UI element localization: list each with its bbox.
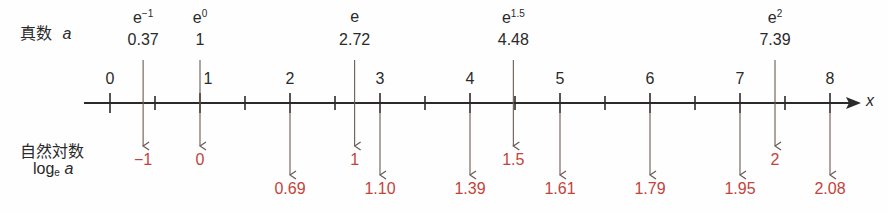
- tick-label: 0: [106, 70, 115, 88]
- tick-label: 4: [466, 70, 475, 88]
- antilog-var: a: [62, 25, 71, 42]
- special-value: 7.39: [759, 31, 790, 49]
- exp-power: 1.5: [511, 8, 525, 19]
- antilog-label-text: 真数: [20, 25, 52, 42]
- antilog-label: 真数 a: [20, 20, 71, 44]
- tick-label: 6: [646, 70, 655, 88]
- value-lines: [143, 60, 830, 175]
- exp-base: e: [193, 9, 202, 26]
- integer-log-value: 1.61: [544, 180, 575, 198]
- integer-log-value: 1.95: [724, 180, 755, 198]
- natlog-prefix: log: [33, 160, 54, 177]
- integer-log-value: 1.39: [454, 180, 485, 198]
- tick-label: 1: [204, 70, 213, 88]
- special-log-value: 1: [350, 151, 359, 169]
- special-exponent: e: [350, 8, 359, 26]
- integer-log-value: 1.79: [634, 180, 665, 198]
- special-exponent: e2: [768, 8, 782, 27]
- tick-label: 5: [556, 70, 565, 88]
- exp-base: e: [502, 9, 511, 26]
- special-value: 0.37: [128, 31, 159, 49]
- exp-power: 2: [777, 8, 783, 19]
- tick-label: 2: [286, 70, 295, 88]
- special-log-value: 1.5: [502, 151, 524, 169]
- exp-base: e: [350, 8, 359, 25]
- exp-power: −1: [142, 8, 153, 19]
- integer-log-value: 2.08: [814, 180, 845, 198]
- tick-label: 3: [376, 70, 385, 88]
- natlog-label: 自然対数: [20, 138, 84, 162]
- exp-base: e: [133, 9, 142, 26]
- integer-log-value: 0.69: [274, 180, 305, 198]
- special-log-value: 0: [196, 151, 205, 169]
- natlog-var: a: [64, 160, 73, 177]
- special-value: 2.72: [339, 31, 370, 49]
- special-exponent: e−1: [133, 8, 153, 27]
- tick-label: 7: [736, 70, 745, 88]
- integer-log-value: 1.10: [364, 180, 395, 198]
- axis-var-label: x: [866, 92, 874, 110]
- natlog-base: e: [54, 167, 60, 178]
- special-value: 4.48: [498, 31, 529, 49]
- natlog-notation: loge a: [33, 160, 73, 178]
- natlog-label-text: 自然対数: [20, 143, 84, 160]
- special-value: 1: [196, 31, 205, 49]
- tick-label: 8: [826, 70, 835, 88]
- exp-power: 0: [202, 8, 208, 19]
- special-log-value: −1: [134, 151, 152, 169]
- special-log-value: 2: [771, 151, 780, 169]
- special-exponent: e1.5: [502, 8, 525, 27]
- special-exponent: e0: [193, 8, 207, 27]
- exp-base: e: [768, 9, 777, 26]
